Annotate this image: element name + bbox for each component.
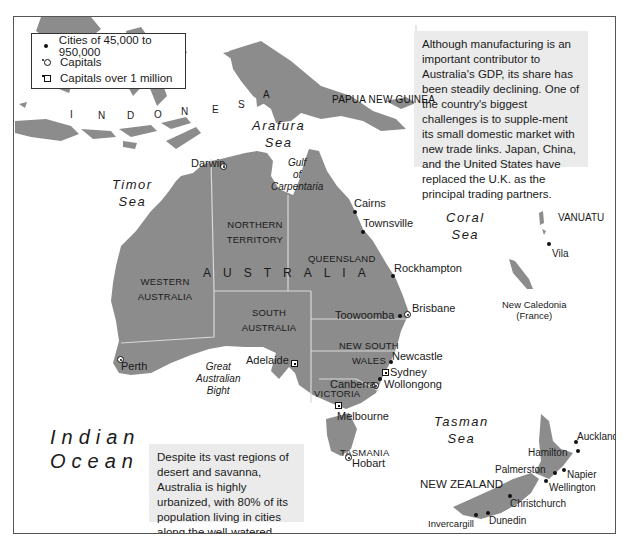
- city-wellington: Wellington: [549, 481, 596, 494]
- city-toowoomba: Toowoomba: [335, 309, 394, 322]
- city-napier: Napier: [567, 468, 596, 481]
- label-northern-territory: NORTHERN TERRITORY: [220, 217, 290, 247]
- city-marker-invercargill: [474, 513, 478, 517]
- indonesia-letter: S: [238, 98, 245, 111]
- capital-marker-vila: [547, 242, 551, 246]
- label-new-caledonia: New Caledonia (France): [502, 299, 566, 321]
- capital-marker-hobart: [345, 454, 352, 461]
- lesser-sunda-2: [119, 125, 157, 137]
- city-melbourne: Melbourne: [337, 410, 389, 423]
- label-vanuatu: VANUATU: [558, 211, 604, 224]
- city-marker-palmerston: [553, 471, 557, 475]
- capital-marker-melbourne: [335, 402, 342, 409]
- city-townsville: Townsville: [363, 217, 413, 230]
- city-adelaide: Adelaide: [246, 354, 289, 367]
- new-caledonia-land: [509, 259, 533, 289]
- indonesia-letter: E: [212, 103, 219, 116]
- label-papua-new-guinea: PAPUA NEW GUINEA: [332, 94, 435, 105]
- small-isles-2: [19, 102, 27, 108]
- info-box-economy: Although manufacturing is an important c…: [414, 31, 588, 167]
- city-perth: Perth: [121, 360, 147, 373]
- city-marker-townsville: [361, 230, 365, 234]
- city-darwin: Darwin: [191, 157, 225, 170]
- city-hobart: Hobart: [352, 457, 385, 470]
- label-south-australia: SOUTH AUSTRALIA: [239, 305, 299, 335]
- label-western-australia: WESTERN AUSTRALIA: [125, 274, 205, 304]
- legend-item-cities: Cities of 45,000 to 950,000: [40, 38, 185, 54]
- timor-land: [166, 127, 201, 149]
- legend-label: Cities of 45,000 to 950,000: [59, 34, 185, 58]
- map-frame: Cities of 45,000 to 950,000 Capitals Cap…: [13, 16, 616, 534]
- city-marker-hamilton: [576, 449, 580, 453]
- label-timor-sea: Timor Sea: [112, 176, 153, 210]
- city-cairns: Cairns: [354, 197, 386, 210]
- capital-marker-brisbane: [404, 311, 411, 318]
- lesser-sunda-1: [81, 129, 116, 139]
- capital-square-icon: [40, 73, 54, 83]
- label-coral-sea: Coral Sea: [446, 209, 485, 243]
- city-wollongong: Wollongong: [384, 378, 442, 391]
- city-auckland: Auckland: [577, 430, 616, 443]
- city-marker-cairns: [353, 210, 357, 214]
- indonesia-letter: A: [263, 88, 270, 101]
- indonesia-letter: O: [154, 108, 162, 121]
- lesser-sunda-3: [161, 117, 191, 129]
- label-great-australian-bight: Great Australian Bight: [196, 361, 240, 397]
- indonesia-letter: N: [181, 105, 188, 118]
- city-newcastle: Newcastle: [392, 350, 443, 363]
- city-vila: Vila: [552, 247, 569, 260]
- vanuatu-isles-2: [542, 229, 546, 235]
- info-box-urbanization: Despite its vast regions of desert and s…: [149, 444, 304, 522]
- city-christchurch: Christchurch: [510, 497, 566, 510]
- city-canberra: Canberra: [330, 378, 376, 391]
- indonesia-letter: D: [127, 109, 134, 122]
- legend-item-capitals-over-1m: Capitals over 1 million: [40, 70, 185, 86]
- city-brisbane: Brisbane: [412, 302, 455, 315]
- capital-marker-sydney: [382, 369, 389, 376]
- capital-marker-adelaide: [291, 360, 298, 367]
- city-marker-napier: [562, 468, 566, 472]
- city-palmerston: Palmerston: [495, 463, 546, 476]
- map-legend: Cities of 45,000 to 950,000 Capitals Cap…: [31, 33, 186, 89]
- vanuatu-isles: [539, 211, 544, 225]
- city-marker-wollongong: [378, 377, 382, 381]
- indonesia-letter: I: [70, 108, 73, 121]
- label-indian-ocean: Indian Ocean: [50, 425, 141, 473]
- label-new-zealand: NEW ZEALAND: [420, 478, 503, 491]
- label-queensland: QUEENSLAND: [308, 251, 375, 266]
- legend-label: Capitals: [60, 56, 102, 68]
- city-dunedin: Dunedin: [489, 514, 526, 527]
- java-land: [15, 119, 79, 141]
- city-invercargill: Invercargill: [428, 517, 474, 530]
- label-arafura-sea: Arafura Sea: [252, 117, 305, 151]
- indonesia-letter: N: [98, 109, 105, 122]
- city-dot-icon: [40, 41, 53, 51]
- label-gulf-of-carpentaria: Gulf of Carpentaria: [271, 157, 323, 193]
- city-marker-toowoomba: [398, 314, 402, 318]
- label-australia: AUSTRALIA: [203, 267, 378, 280]
- capital-marker-wellington: [544, 479, 548, 483]
- capital-star-icon: [40, 57, 54, 67]
- city-hamilton: Hamilton: [528, 446, 567, 459]
- legend-label: Capitals over 1 million: [60, 72, 173, 84]
- city-rockhampton: Rockhampton: [394, 262, 462, 275]
- sumba-land: [123, 141, 137, 149]
- label-tasman-sea: Tasman Sea: [434, 413, 489, 447]
